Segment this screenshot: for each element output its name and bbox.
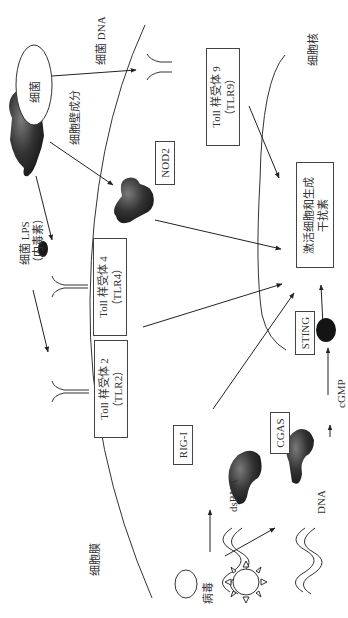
dsrna-label: dsRNA xyxy=(227,479,240,512)
tlr9-label: Toll 样受体 9 xyxy=(209,66,223,128)
cell-wall-components-label: 细胞壁成分 xyxy=(69,90,82,145)
virus-ellipse xyxy=(175,570,197,598)
tlr4-label: Toll 样受体 4 xyxy=(96,256,110,318)
tlr9-abbr: （TLR9） xyxy=(223,66,237,128)
cell-membrane-label: 细胞膜 xyxy=(89,543,102,576)
virus-particle xyxy=(225,561,267,603)
nucleus-membrane-curve xyxy=(258,55,286,350)
sting-label: STING xyxy=(299,317,311,349)
rig-i-label: RIG-I xyxy=(177,432,189,458)
nod2-protein xyxy=(114,178,154,224)
diagram-graphics xyxy=(0,0,348,618)
endotoxin-label: （内毒素） xyxy=(32,213,45,268)
outcome-label-line1: 激活细胞和生成 xyxy=(301,177,315,254)
nucleus-label: 细胞核 xyxy=(307,33,320,66)
tlr9-receptor-fork xyxy=(147,54,172,80)
tlr4-box: Toll 样受体 4 （TLR4） xyxy=(93,238,127,336)
bacteria-label: 细菌 xyxy=(29,81,42,103)
sting-box: STING xyxy=(295,311,315,355)
dna-label: DNA xyxy=(315,490,328,514)
bacterial-lps-label: 细菌 LPS xyxy=(19,221,32,265)
tlr2-abbr: （TLR2） xyxy=(111,358,125,420)
cgmp-label: cGMP xyxy=(335,379,348,408)
bacterial-dna-label: 细菌 DNA xyxy=(95,16,108,65)
outcome-label-line2: 干扰素 xyxy=(315,177,329,254)
tlr4-abbr: （TLR4） xyxy=(110,256,124,318)
tlr4-receptor-fork xyxy=(52,276,88,297)
outcome-box: 激活细胞和生成 干扰素 xyxy=(296,162,334,268)
rig-i-box: RIG-I xyxy=(173,425,193,465)
tlr2-label: Toll 样受体 2 xyxy=(97,358,111,420)
cgas-protein xyxy=(286,429,314,484)
sting-protein xyxy=(316,318,336,342)
nod2-box: NOD2 xyxy=(155,141,175,185)
tlr9-box: Toll 样受体 9 （TLR9） xyxy=(206,48,240,146)
nod2-label: NOD2 xyxy=(159,148,171,177)
cgas-box: CGAS xyxy=(270,412,290,454)
tlr2-box: Toll 样受体 2 （TLR2） xyxy=(94,340,128,438)
tlr2-receptor-fork xyxy=(52,381,89,402)
immune-pathway-diagram: 细菌 DNA 细菌 细胞壁成分 细菌 LPS （内毒素） 细胞膜 细胞核 病毒 … xyxy=(0,0,348,618)
virus-label: 病毒 xyxy=(202,582,215,604)
dna-helix xyxy=(295,528,322,594)
cgas-label: CGAS xyxy=(274,418,286,447)
